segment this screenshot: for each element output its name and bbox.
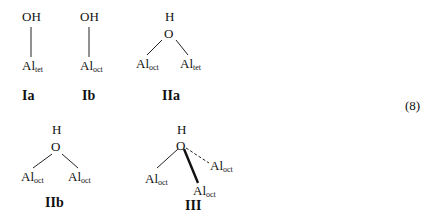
structure-label-iii: III bbox=[185, 199, 201, 213]
al-atom-iia-right: Altet bbox=[180, 57, 201, 70]
hydroxyl-group-ib: OH bbox=[80, 10, 99, 23]
al-atom-iii-back: Aloct bbox=[210, 159, 233, 172]
al-atom-iib-right: Aloct bbox=[68, 170, 91, 183]
hydrogen-iib: H bbox=[52, 123, 61, 136]
structure-label-ib: Ib bbox=[82, 89, 95, 103]
bond-lines bbox=[0, 0, 440, 222]
equation-number: (8) bbox=[405, 99, 420, 112]
oxygen-iib: O bbox=[51, 140, 60, 153]
al-atom-ib: Aloct bbox=[80, 59, 103, 72]
oxygen-iia: O bbox=[164, 27, 173, 40]
al-atom-iib-left: Aloct bbox=[21, 170, 44, 183]
oxygen-iii: O bbox=[176, 139, 185, 152]
hydroxyl-group-ia: OH bbox=[22, 10, 41, 23]
al-atom-iia-left: Aloct bbox=[136, 57, 159, 70]
hydrogen-iia: H bbox=[165, 10, 174, 23]
structure-label-iia: IIa bbox=[162, 89, 180, 103]
al-atom-iii-front: Aloct bbox=[193, 184, 216, 197]
al-atom-ia: Altet bbox=[22, 59, 43, 72]
al-atom-iii-left: Aloct bbox=[145, 172, 168, 185]
structure-label-ia: Ia bbox=[22, 89, 34, 103]
structure-label-iib: IIb bbox=[45, 196, 64, 210]
hydrogen-iii: H bbox=[177, 123, 186, 136]
